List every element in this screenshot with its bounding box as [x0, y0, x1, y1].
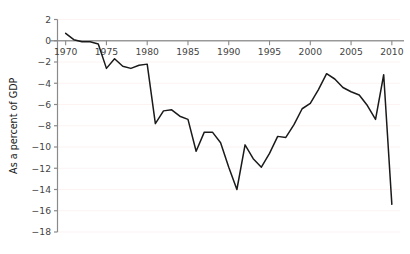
- y-axis-title-group: As a percent of GDP: [8, 77, 19, 173]
- y-axis-tick-label: 0: [45, 35, 51, 46]
- y-axis-title: As a percent of GDP: [8, 77, 19, 173]
- y-axis-tick-label: −6: [37, 99, 51, 110]
- x-axis-tick-label: 2000: [299, 46, 323, 57]
- x-axis-tick-label: 1990: [217, 46, 241, 57]
- x-axis-tick-label: 1995: [258, 46, 282, 57]
- y-axis-tick-label: −8: [37, 120, 51, 131]
- chart-figure: 197019751980198519901995200020052010 20−…: [0, 0, 410, 254]
- y-axis-tick-label: 2: [45, 14, 51, 25]
- y-axis-tick-label: −14: [32, 184, 52, 195]
- y-axis-tick-label: −16: [32, 205, 52, 216]
- y-axis-tick-label: −2: [37, 56, 51, 67]
- x-axis-tick-label: 1970: [54, 46, 78, 57]
- y-axis-tick-label: −18: [32, 226, 52, 237]
- y-axis-tick-label: −10: [32, 141, 52, 152]
- y-axis-tick-label: −12: [32, 163, 51, 174]
- x-axis-tick-label: 2005: [339, 46, 363, 57]
- x-axis-labels-group: 197019751980198519901995200020052010: [54, 46, 404, 57]
- x-axis-tick-label: 2010: [380, 46, 404, 57]
- x-axis-tick-label: 1975: [95, 46, 119, 57]
- y-axis-tick-label: −4: [37, 78, 51, 89]
- x-axis-tick-label: 1980: [136, 46, 160, 57]
- chart-canvas: 197019751980198519901995200020052010 20−…: [0, 0, 410, 254]
- x-axis-tick-label: 1985: [176, 46, 200, 57]
- chart-background: [0, 0, 410, 254]
